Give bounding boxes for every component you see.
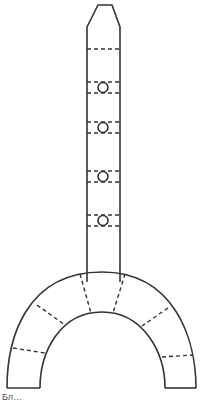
ring-marker-1 (87, 82, 120, 93)
figure-caption: Бл… (2, 392, 22, 402)
shaft-outline (87, 5, 120, 282)
arch-base (7, 272, 196, 388)
ring-marker-4 (87, 215, 120, 226)
ring-marker-2 (87, 122, 120, 133)
ring-circle-icon (98, 83, 108, 93)
ring-circle-icon (98, 216, 108, 226)
ring-marker-3 (87, 171, 120, 182)
ring-circle-icon (98, 172, 108, 182)
ring-circle-icon (98, 123, 108, 133)
